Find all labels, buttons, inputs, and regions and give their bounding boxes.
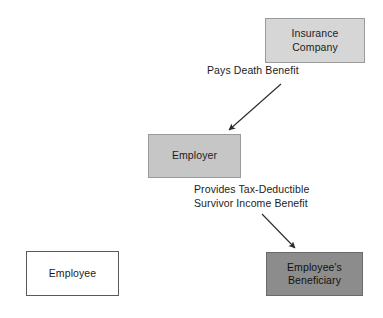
diagram-canvas: Insurance Company Pays Death Benefit Emp…: [0, 0, 383, 318]
node-employee: Employee: [26, 251, 119, 296]
edge-label-provides-survivor-income-benefit: Provides Tax-Deductible Survivor Income …: [194, 183, 309, 211]
edge-pays-death-benefit-arrow: [229, 84, 281, 130]
node-employer: Employer: [148, 134, 241, 178]
edge-provides-survivor-benefit-arrow: [262, 214, 295, 248]
node-insurance-company: Insurance Company: [265, 18, 365, 63]
node-employees-beneficiary: Employee's Beneficiary: [266, 252, 363, 296]
edge-label-pays-death-benefit: Pays Death Benefit: [207, 64, 299, 78]
